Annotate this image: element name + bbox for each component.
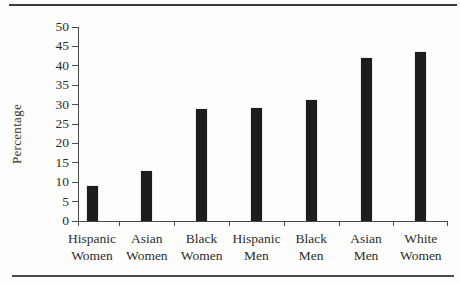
x-category-label-black-men: Black Men <box>282 231 340 264</box>
y-tick-20 <box>72 143 78 144</box>
y-tick-label-5: 5 <box>33 194 69 210</box>
y-tick-50 <box>72 27 78 28</box>
y-tick-label-15: 15 <box>33 155 69 171</box>
y-tick-25 <box>72 124 78 125</box>
y-tick-label-45: 45 <box>33 38 69 54</box>
y-tick-label-30: 30 <box>33 97 69 113</box>
y-tick-5 <box>72 201 78 202</box>
bar-white-women <box>415 52 426 221</box>
y-tick-label-25: 25 <box>33 116 69 132</box>
x-category-label-white-women: White Women <box>392 231 450 264</box>
y-tick-label-0: 0 <box>33 213 69 229</box>
bar-asian-men <box>361 58 372 221</box>
y-axis-title: Percentage <box>9 74 25 194</box>
y-axis-line <box>78 27 79 222</box>
y-tick-15 <box>72 162 78 163</box>
x-tick-0 <box>78 221 79 226</box>
bar-hispanic-men <box>251 108 262 221</box>
bar-black-men <box>306 100 317 221</box>
y-tick-35 <box>72 85 78 86</box>
y-tick-label-40: 40 <box>33 58 69 74</box>
x-tick-7 <box>447 221 448 226</box>
x-tick-2 <box>174 221 175 226</box>
bar-hispanic-women <box>87 186 98 221</box>
x-category-label-asian-women: Asian Women <box>118 231 176 264</box>
y-tick-10 <box>72 182 78 183</box>
y-tick-40 <box>72 65 78 66</box>
y-tick-label-35: 35 <box>33 77 69 93</box>
y-tick-label-20: 20 <box>33 135 69 151</box>
x-tick-4 <box>284 221 285 226</box>
bar-black-women <box>196 109 207 221</box>
y-tick-45 <box>72 46 78 47</box>
plot-area: Percentage 05101520253035404550 Hispanic… <box>0 0 460 284</box>
x-category-label-hispanic-women: Hispanic Women <box>63 231 121 264</box>
x-tick-1 <box>119 221 120 226</box>
x-category-label-asian-men: Asian Men <box>337 231 395 264</box>
y-tick-label-10: 10 <box>33 174 69 190</box>
x-category-label-black-women: Black Women <box>173 231 231 264</box>
x-tick-3 <box>229 221 230 226</box>
scanned-bar-chart-figure: Percentage 05101520253035404550 Hispanic… <box>0 0 460 284</box>
y-tick-label-50: 50 <box>33 19 69 35</box>
x-tick-5 <box>339 221 340 226</box>
x-category-label-hispanic-men: Hispanic Men <box>227 231 285 264</box>
bar-asian-women <box>141 171 152 221</box>
y-tick-30 <box>72 104 78 105</box>
x-tick-6 <box>393 221 394 226</box>
bottom-rule <box>12 275 454 277</box>
